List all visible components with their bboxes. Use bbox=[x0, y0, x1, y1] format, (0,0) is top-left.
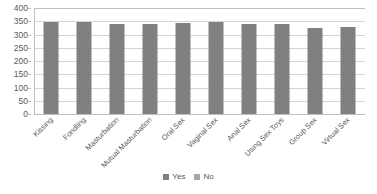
bar-slot bbox=[67, 8, 100, 114]
y-tick-label: 300 bbox=[0, 31, 28, 40]
legend-item[interactable]: Yes bbox=[163, 172, 185, 181]
plot-wrapper bbox=[34, 8, 365, 114]
y-axis-tick-labels: 400350300250200150100500 bbox=[0, 8, 30, 114]
legend-label: No bbox=[203, 172, 213, 181]
bar bbox=[341, 27, 356, 114]
y-tick-mark bbox=[28, 21, 31, 22]
bar bbox=[43, 22, 58, 114]
y-tick-label: 100 bbox=[0, 84, 28, 93]
bar-chart: 400350300250200150100500 KissingFondling… bbox=[0, 0, 377, 194]
y-tick-mark bbox=[28, 8, 31, 9]
bar-slot bbox=[166, 8, 199, 114]
y-tick-mark bbox=[28, 48, 31, 49]
y-tick-label: 350 bbox=[0, 17, 28, 26]
legend-swatch-icon bbox=[163, 174, 169, 180]
bar bbox=[109, 24, 124, 114]
plot-area bbox=[34, 8, 365, 114]
y-tick-label: 250 bbox=[0, 44, 28, 53]
y-tick-mark bbox=[28, 74, 31, 75]
x-tick-label: Fondling bbox=[61, 116, 87, 142]
y-tick-mark bbox=[28, 88, 31, 89]
x-tick-label: Virtual Sex bbox=[321, 116, 352, 147]
y-tick-label: 150 bbox=[0, 70, 28, 79]
x-tick-label: Vaginal Sex bbox=[186, 116, 220, 150]
y-tick-mark bbox=[28, 61, 31, 62]
bar bbox=[175, 23, 190, 114]
y-tick-label: 400 bbox=[0, 4, 28, 13]
x-tick-label: Kissing bbox=[31, 116, 54, 139]
bar bbox=[209, 22, 224, 114]
x-tick-label: Oral Sex bbox=[160, 116, 186, 142]
y-tick-label: 200 bbox=[0, 57, 28, 66]
x-tick-label: Anal Sex bbox=[226, 116, 253, 143]
y-tick-mark bbox=[28, 101, 31, 102]
bar-slot bbox=[332, 8, 365, 114]
x-tick-label: Group Sex bbox=[288, 116, 319, 147]
bar bbox=[142, 24, 157, 114]
bar bbox=[242, 24, 257, 114]
legend-item[interactable]: No bbox=[194, 172, 213, 181]
x-axis-category-labels: KissingFondlingMasturbationMutual Mastur… bbox=[34, 114, 365, 172]
bar-slot bbox=[266, 8, 299, 114]
legend-label: Yes bbox=[172, 172, 185, 181]
legend-swatch-icon bbox=[194, 174, 200, 180]
bar bbox=[308, 28, 323, 114]
chart-legend: YesNo bbox=[0, 172, 377, 181]
y-tick-mark bbox=[28, 114, 31, 115]
y-tick-label: 50 bbox=[0, 97, 28, 106]
bar-slot bbox=[299, 8, 332, 114]
bar bbox=[275, 24, 290, 114]
bar-slot bbox=[233, 8, 266, 114]
bar-slot bbox=[133, 8, 166, 114]
y-tick-mark bbox=[28, 35, 31, 36]
bar-slot bbox=[200, 8, 233, 114]
bar-slot bbox=[100, 8, 133, 114]
y-tick-label: 0 bbox=[0, 110, 28, 119]
bar bbox=[76, 22, 91, 114]
bar-slot bbox=[34, 8, 67, 114]
